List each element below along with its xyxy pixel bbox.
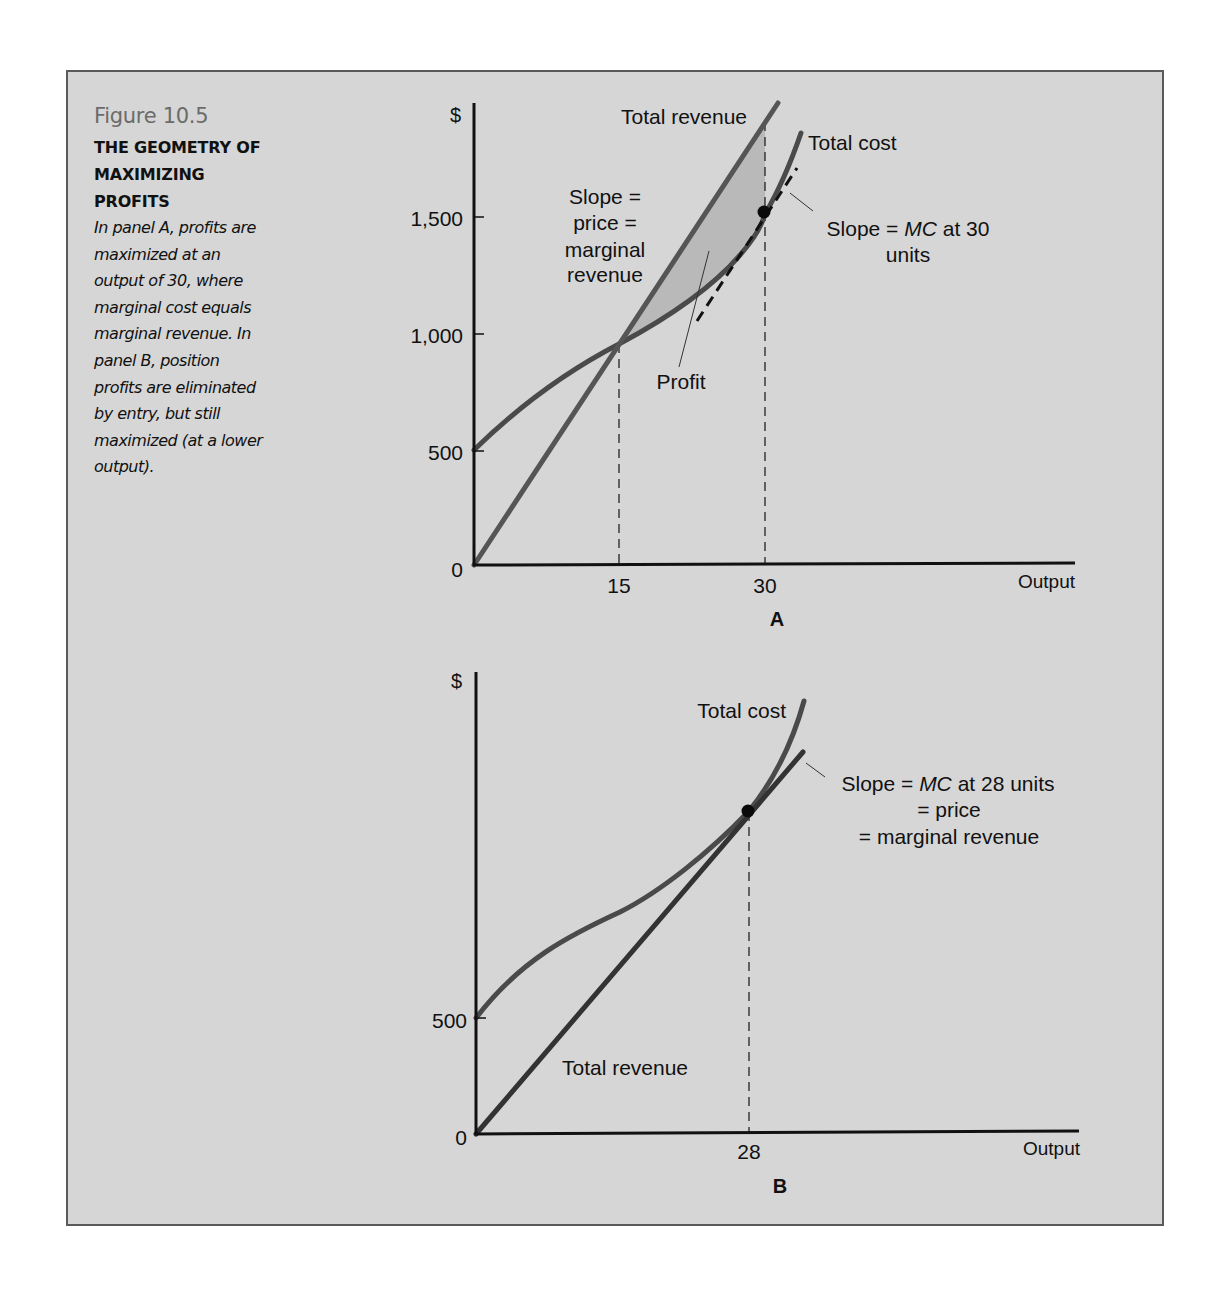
y-tick-1500-a: 1,500 bbox=[410, 207, 463, 230]
profit-label: Profit bbox=[656, 370, 705, 393]
total-cost-curve-b bbox=[476, 701, 804, 1018]
x-tick-30-a: 30 bbox=[753, 574, 776, 597]
slope-label-b-line3: = marginal revenue bbox=[859, 825, 1039, 848]
x-axis-a bbox=[473, 563, 1075, 565]
mc-leader-line-a bbox=[790, 193, 813, 211]
slope-mc-label-a-line2: units bbox=[886, 243, 930, 266]
x-axis-label-a: Output bbox=[1018, 571, 1076, 592]
slope-price-label-4: revenue bbox=[567, 263, 643, 286]
tangent-point-a bbox=[758, 206, 771, 219]
y-tick-500-b: 500 bbox=[432, 1009, 467, 1032]
slope-price-label-1: Slope = bbox=[569, 185, 641, 208]
panel-b: $ 0 500 28 Output B Total cost Total rev… bbox=[432, 670, 1081, 1197]
x-axis-label-b: Output bbox=[1023, 1138, 1081, 1159]
total-cost-label-a: Total cost bbox=[808, 131, 897, 154]
x-tick-15-a: 15 bbox=[607, 574, 630, 597]
slope-label-b-line2: = price bbox=[917, 798, 981, 821]
slope-price-label-3: marginal bbox=[565, 238, 646, 261]
y-tick-0-b: 0 bbox=[455, 1126, 467, 1149]
panel-label-b: B bbox=[773, 1175, 787, 1197]
x-axis-b bbox=[475, 1131, 1079, 1134]
total-revenue-label-b: Total revenue bbox=[562, 1056, 688, 1079]
panel-a: $ 0 500 1,000 1,500 15 30 Output A Total… bbox=[410, 103, 1075, 630]
x-tick-28-b: 28 bbox=[737, 1140, 760, 1163]
slope-label-b-line1: Slope = MC at 28 units bbox=[841, 772, 1054, 795]
y-tick-0-a: 0 bbox=[451, 558, 463, 581]
y-axis-label-b: $ bbox=[451, 670, 462, 692]
tangent-point-b bbox=[742, 805, 755, 818]
total-revenue-label-a: Total revenue bbox=[621, 105, 747, 128]
y-axis-label-a: $ bbox=[450, 104, 461, 126]
slope-mc-label-a: Slope = MC at 30 bbox=[827, 217, 990, 240]
total-revenue-line-a bbox=[474, 103, 778, 565]
slope-price-label-2: price = bbox=[573, 211, 637, 234]
panel-label-a: A bbox=[770, 608, 784, 630]
total-cost-label-b: Total cost bbox=[697, 699, 786, 722]
mc-leader-line-b bbox=[806, 763, 825, 777]
chart-canvas: $ 0 500 1,000 1,500 15 30 Output A Total… bbox=[0, 0, 1224, 1295]
y-tick-500-a: 500 bbox=[428, 441, 463, 464]
y-tick-1000-a: 1,000 bbox=[410, 324, 463, 347]
